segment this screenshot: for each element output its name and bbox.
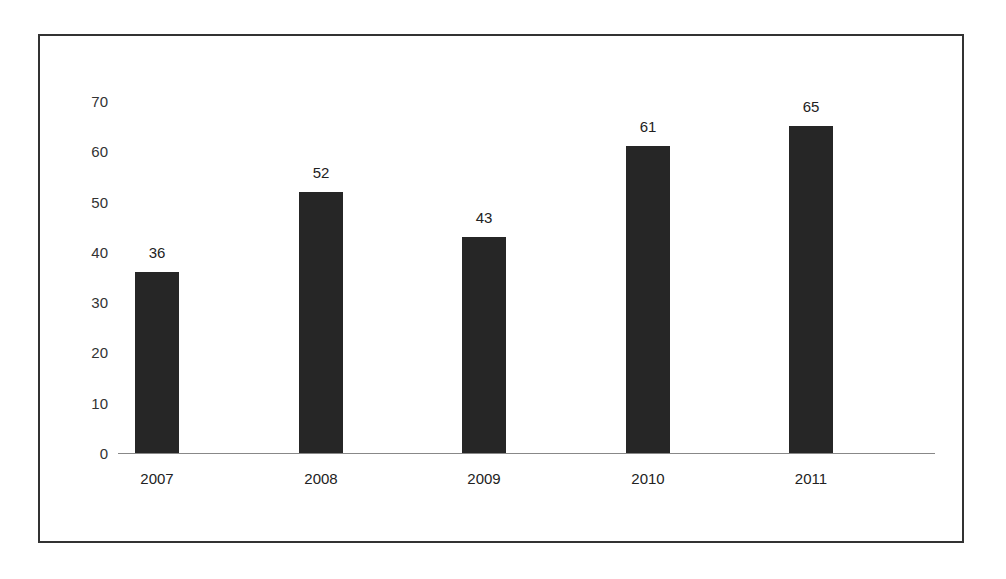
x-tick-label: 2011 — [776, 470, 846, 487]
data-label: 65 — [781, 98, 841, 115]
y-tick-label: 50 — [68, 193, 108, 210]
y-tick-label: 30 — [68, 294, 108, 311]
y-tick-label: 70 — [68, 93, 108, 110]
x-tick-label: 2010 — [613, 470, 683, 487]
x-tick-label: 2008 — [286, 470, 356, 487]
data-label: 61 — [618, 118, 678, 135]
y-tick-label: 60 — [68, 143, 108, 160]
x-tick-label: 2009 — [449, 470, 519, 487]
y-tick-label: 20 — [68, 344, 108, 361]
y-tick-label: 10 — [68, 394, 108, 411]
data-label: 52 — [291, 164, 351, 181]
y-tick-label: 40 — [68, 243, 108, 260]
bar-2008 — [299, 192, 343, 453]
x-tick-label: 2007 — [122, 470, 192, 487]
data-label: 43 — [454, 209, 514, 226]
y-tick-label: 0 — [68, 445, 108, 462]
x-axis-line — [118, 453, 935, 454]
bar-2007 — [135, 272, 179, 453]
bar-2011 — [789, 126, 833, 453]
bar-2010 — [626, 146, 670, 453]
bar-2009 — [462, 237, 506, 453]
data-label: 36 — [127, 244, 187, 261]
